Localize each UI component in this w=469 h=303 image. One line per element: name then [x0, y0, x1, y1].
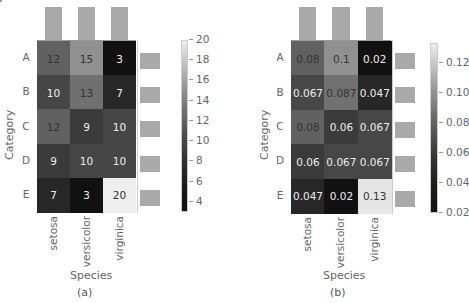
colorbar	[181, 40, 188, 212]
heatmap-cell: 12	[37, 109, 70, 144]
y-tick-label: B	[273, 86, 287, 98]
heatmap-cell: 0.02	[358, 41, 392, 76]
colorbar-tick-label: 4	[196, 195, 203, 207]
x-tick-label: virginica	[113, 216, 125, 261]
colorbar-tick-label: 16	[196, 73, 209, 85]
colorbar-tick-label: 0.06	[446, 146, 469, 158]
heatmap-cell: 0.067	[358, 110, 392, 145]
marginal-top-bar	[366, 7, 383, 40]
colorbar-tick-label: 10	[196, 134, 209, 146]
colorbar-tick-label: 0.02	[446, 206, 469, 218]
x-tick-label: setosa	[47, 216, 59, 250]
colorbar	[430, 43, 438, 213]
y-tick-label: E	[19, 188, 33, 200]
heatmap-cell: 0.087	[324, 75, 358, 110]
marginal-right-bar	[140, 156, 160, 172]
y-tick-label: D	[273, 154, 287, 166]
heatmap-cell: 0.047	[291, 179, 325, 214]
heatmap-cell: 0.08	[291, 110, 325, 145]
y-axis-title: Category	[3, 110, 16, 160]
marginal-right-bar	[140, 121, 160, 137]
colorbar-tick-label: 8	[196, 154, 203, 166]
marginal-divider	[137, 40, 138, 213]
heatmap-cell: 0.067	[291, 75, 325, 110]
heatmap-cell: 0.067	[358, 144, 392, 179]
heatmap-cell: 10	[103, 144, 136, 179]
colorbar-tick-label: 12	[196, 114, 209, 126]
y-tick-label: C	[19, 120, 33, 132]
y-tick-label: C	[273, 120, 287, 132]
y-tick-label: E	[273, 189, 287, 201]
heatmap-cell: 9	[70, 109, 103, 144]
colorbar-tick-label: 0.12	[446, 56, 469, 68]
x-tick-label: virginica	[368, 217, 380, 262]
heatmap-cell: 15	[70, 41, 103, 76]
heatmap-cell: 0.047	[358, 75, 392, 110]
marginal-right-bar	[395, 53, 415, 69]
y-tick-label: A	[273, 51, 287, 63]
colorbar-tick-label: 20	[196, 33, 209, 45]
heatmap-cell: 0.06	[324, 110, 358, 145]
marginal-right-bar	[395, 156, 415, 172]
colorbar-tick-label: 0.08	[446, 116, 469, 128]
x-axis-title: Species	[70, 269, 112, 282]
marginal-top-bar	[45, 7, 62, 40]
marginal-top-bar	[332, 7, 349, 40]
heatmap-cell: 20	[103, 178, 136, 213]
marginal-top-bar	[78, 7, 95, 40]
marginal-right-bar	[140, 53, 160, 69]
marginal-divider	[392, 40, 393, 214]
y-tick-label: B	[19, 85, 33, 97]
heatmap-cell: 12	[37, 41, 70, 76]
heatmap-cell: 3	[70, 178, 103, 213]
x-tick-label: versicolor	[80, 216, 92, 267]
heatmap-cell: 0.13	[358, 179, 392, 214]
panel-caption: (a)	[77, 286, 92, 299]
heatmap-cell: 0.02	[324, 179, 358, 214]
colorbar-tick-label: 0.04	[446, 176, 469, 188]
colorbar-tick-label: 6	[196, 175, 203, 187]
x-tick-label: versicolor	[334, 217, 346, 268]
heatmap-cell: 10	[37, 75, 70, 110]
heatmap-cell: 10	[70, 144, 103, 179]
panel-caption: (b)	[330, 286, 346, 299]
marginal-right-bar	[395, 122, 415, 138]
x-axis-title: Species	[323, 269, 365, 282]
heatmap-cell: 7	[103, 75, 136, 110]
heatmap-cell: 0.067	[324, 144, 358, 179]
y-tick-label: D	[19, 154, 33, 166]
marginal-right-bar	[395, 191, 415, 207]
marginal-top-bar	[111, 7, 128, 40]
marginal-right-bar	[140, 87, 160, 103]
heatmap-b	[0, 0, 2, 2]
y-tick-label: A	[19, 51, 33, 63]
heatmap-cell: 0.06	[291, 144, 325, 179]
heatmap-cell: 9	[37, 144, 70, 179]
marginal-right-bar	[395, 87, 415, 103]
heatmap-cell: 0.08	[291, 41, 325, 76]
heatmap-cell: 7	[37, 178, 70, 213]
heatmap-cell: 13	[70, 75, 103, 110]
heatmap-cell: 0.1	[324, 41, 358, 76]
heatmap-cell: 3	[103, 41, 136, 76]
colorbar-tick-label: 14	[196, 94, 209, 106]
marginal-right-bar	[140, 190, 160, 206]
colorbar-tick-label: 18	[196, 53, 209, 65]
marginal-top-bar	[299, 7, 316, 40]
colorbar-tick-label: 0.10	[446, 86, 469, 98]
heatmap-cell: 10	[103, 109, 136, 144]
y-axis-title: Category	[258, 110, 271, 160]
x-tick-label: setosa	[301, 217, 313, 251]
